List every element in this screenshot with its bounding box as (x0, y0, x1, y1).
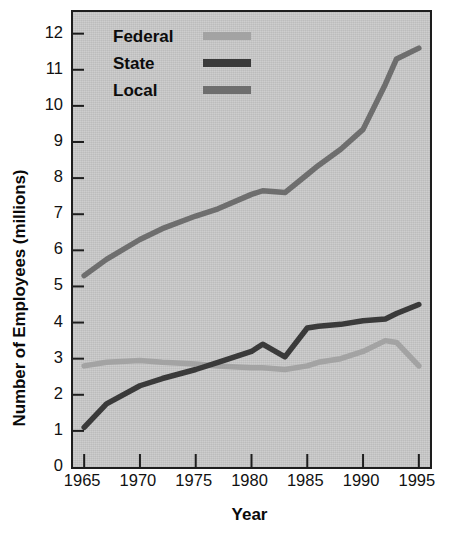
y-tick-label: 2 (33, 385, 63, 402)
y-tick-label: 12 (33, 24, 63, 41)
legend-label-state: State (113, 55, 199, 72)
legend-item-state: State (113, 51, 251, 75)
legend-swatch-federal (203, 32, 251, 40)
y-tick-label: 11 (33, 60, 63, 77)
legend-swatch-state (203, 59, 251, 67)
y-tick-label: 4 (33, 313, 63, 330)
x-tick-label: 1970 (108, 472, 168, 489)
y-tick-label: 7 (33, 204, 63, 221)
legend-label-local: Local (113, 82, 199, 99)
y-tick-label: 6 (33, 240, 63, 257)
y-tick-label: 3 (33, 349, 63, 366)
legend-item-local: Local (113, 78, 251, 102)
y-tick-label: 8 (33, 168, 63, 185)
x-tick-label: 1975 (164, 472, 224, 489)
x-axis-title: Year (71, 505, 428, 525)
x-tick-label: 1965 (52, 472, 112, 489)
y-tick-label: 10 (33, 96, 63, 113)
x-tick-label: 1995 (387, 472, 447, 489)
x-tick-label: 1980 (220, 472, 280, 489)
line-chart: Number of Employees (millions) 012345678… (0, 0, 456, 540)
x-tick-label: 1990 (331, 472, 391, 489)
y-tick-label: 1 (33, 421, 63, 438)
y-tick-label: 5 (33, 276, 63, 293)
legend-swatch-local (203, 86, 251, 94)
y-tick-label: 9 (33, 132, 63, 149)
legend-label-federal: Federal (113, 28, 199, 45)
legend-item-federal: Federal (113, 24, 251, 48)
legend: Federal State Local (113, 24, 251, 102)
series-line-federal (84, 341, 419, 370)
x-tick-label: 1985 (275, 472, 335, 489)
